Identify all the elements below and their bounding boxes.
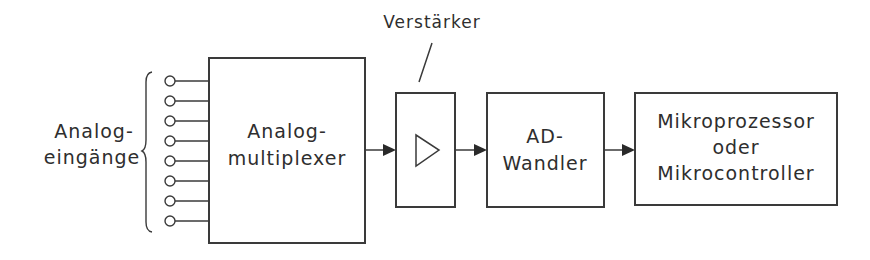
input-terminal <box>165 196 175 206</box>
inputs-label-line2: eingänge <box>44 146 141 168</box>
amplifier-block <box>396 93 455 207</box>
input-brace <box>142 72 152 232</box>
arrow-amp-to-adc-head <box>474 144 487 156</box>
input-terminal <box>165 116 175 126</box>
input-terminal <box>165 176 175 186</box>
multiplexer-label-line2: multiplexer <box>228 147 346 169</box>
adc-block <box>487 93 604 207</box>
processor-label-line2: oder <box>712 136 759 158</box>
arrow-mux-to-amp-head <box>383 144 396 156</box>
block-diagram: Analog- eingänge Analog- multiplexer Ver… <box>0 0 870 260</box>
input-terminal <box>165 156 175 166</box>
input-pins <box>165 76 209 226</box>
amplifier-callout-label: Verstärker <box>383 12 480 32</box>
input-terminal <box>165 76 175 86</box>
triangle-amplifier-icon <box>416 135 439 166</box>
adc-label-line2: Wandler <box>502 152 587 174</box>
processor-label-line1: Mikroprozessor <box>657 110 815 132</box>
amplifier-callout-line <box>419 43 432 82</box>
input-terminal <box>165 216 175 226</box>
input-terminal <box>165 136 175 146</box>
arrow-adc-to-processor-head <box>622 144 635 156</box>
adc-label-line1: AD- <box>526 125 563 147</box>
processor-label-line3: Mikrocontroller <box>657 162 814 184</box>
multiplexer-label-line1: Analog- <box>247 120 327 142</box>
inputs-label-line1: Analog- <box>54 120 134 142</box>
input-terminal <box>165 96 175 106</box>
